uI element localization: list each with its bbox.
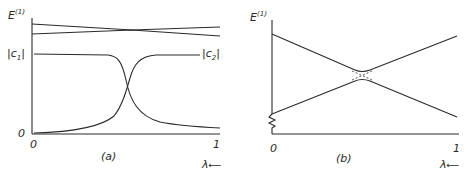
c1-symbol: |c — [7, 47, 17, 60]
panel-b-diabatic-crossing — [352, 71, 372, 80]
panel-a-x-tick-1: 1 — [213, 138, 220, 151]
panel-b-x-tick-0: 0 — [270, 142, 277, 155]
arrow-left-icon: ⟵ — [209, 160, 222, 170]
panel-b-axis-break-icon — [269, 114, 275, 134]
panel-a-caption: (a) — [101, 150, 116, 163]
c2-bar: | — [216, 47, 220, 60]
panel-a-x-tick-0: 0 — [30, 138, 37, 151]
panel-b-x-tick-1: 1 — [453, 142, 460, 155]
energy-symbol: E — [250, 11, 257, 24]
panel-a-y-zero: 0 — [18, 127, 25, 140]
panel-a-c2-curve — [34, 55, 200, 133]
panel-a-x-label: λ⟵ — [202, 158, 221, 171]
c2-symbol: |c — [202, 47, 212, 60]
panel-a-c1-label: |c1| — [7, 47, 25, 62]
figure-canvas — [0, 0, 467, 173]
panel-b-x-label: λ⟵ — [440, 158, 459, 171]
panel-a-c2-label: |c2| — [202, 47, 220, 62]
c1-bar: | — [21, 47, 25, 60]
panel-a-energy-curve-upper — [32, 24, 220, 30]
panel-a-energy-label: E(1) — [8, 8, 25, 22]
panel-b-energy-label: E(1) — [250, 10, 267, 24]
panel-b-energy-curve-upper — [272, 34, 457, 72]
panel-a-c1-curve — [34, 54, 220, 128]
energy-order: (1) — [15, 8, 25, 16]
panel-b-energy-curve-lower — [272, 80, 457, 118]
panel-a-energy-curve-lower — [32, 30, 220, 36]
panel-b-caption: (b) — [336, 152, 352, 165]
energy-order: (1) — [257, 10, 267, 18]
energy-symbol: E — [8, 9, 15, 22]
arrow-left-icon: ⟵ — [447, 160, 460, 170]
